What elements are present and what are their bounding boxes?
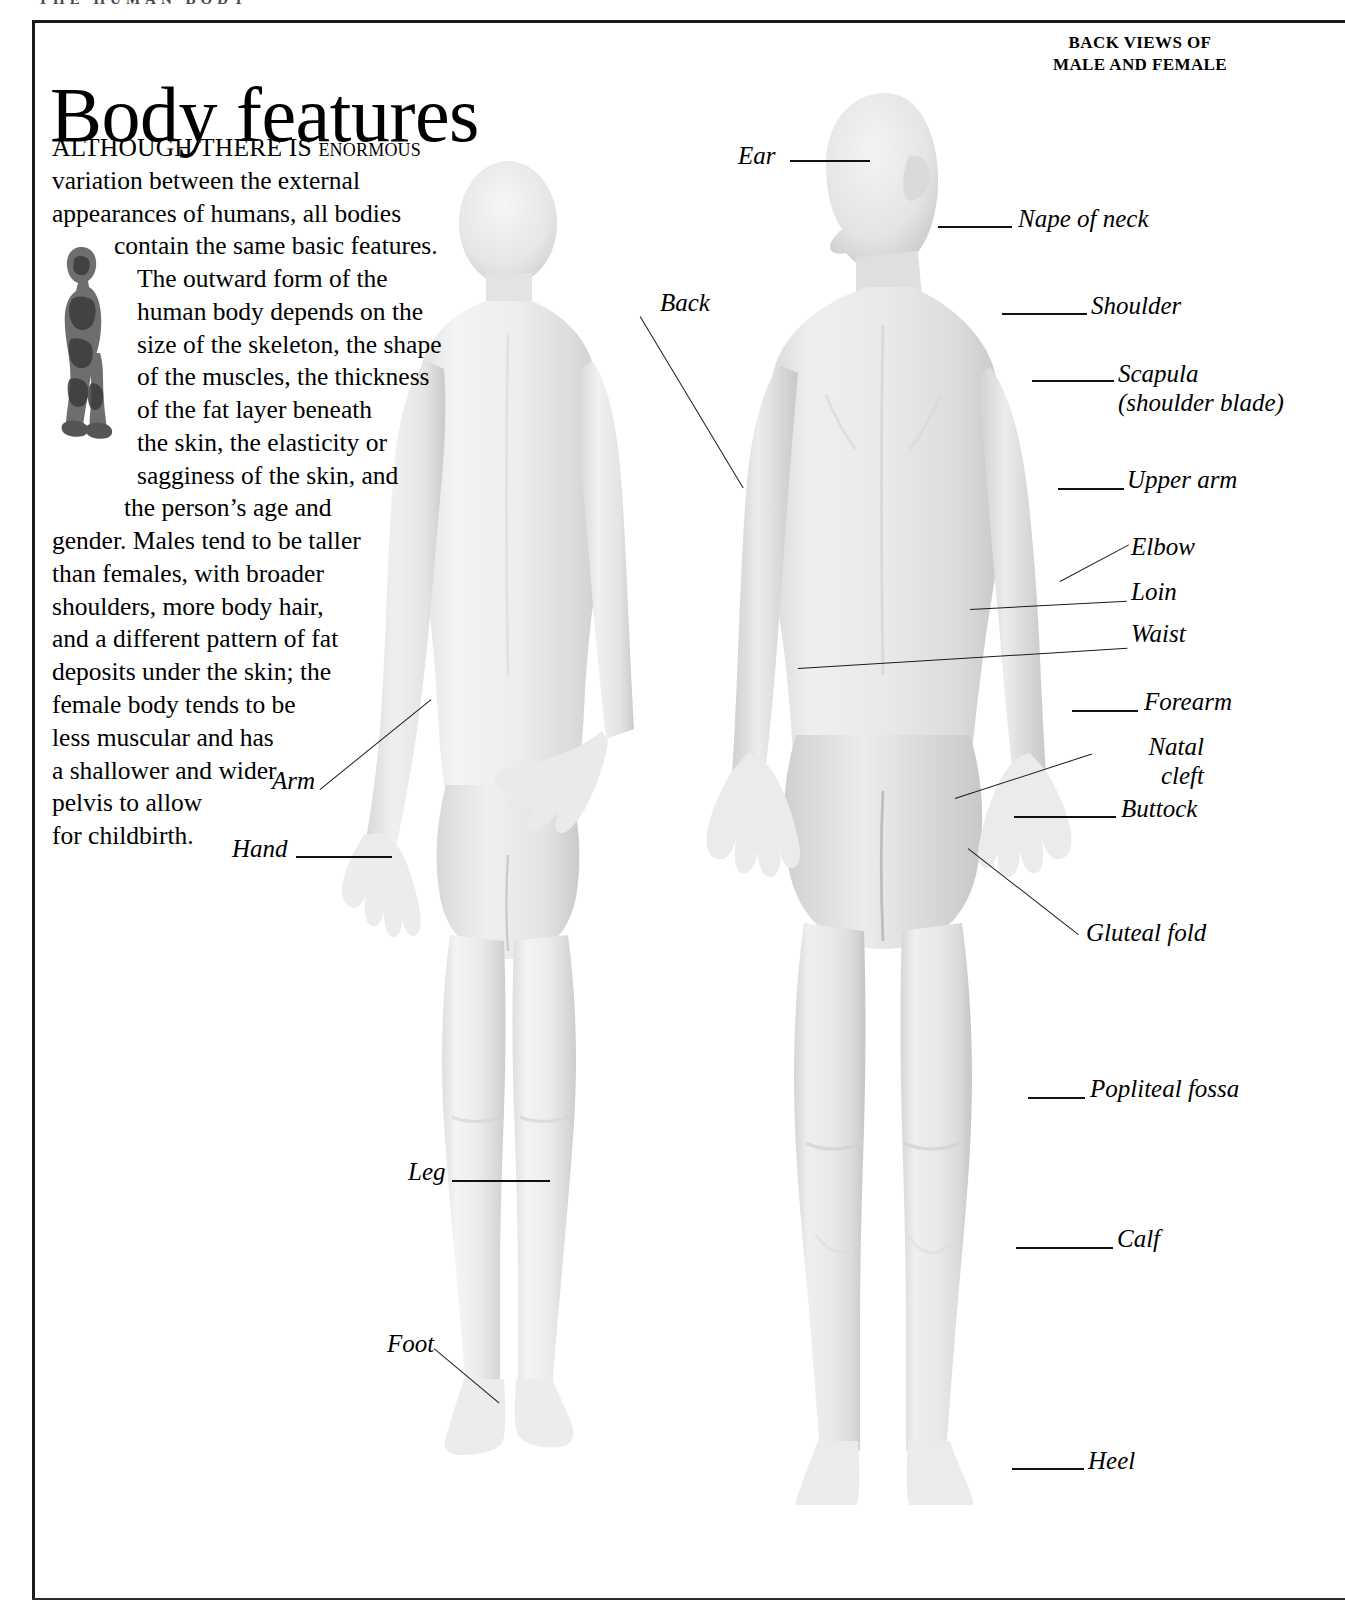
label-natal-cleft-line2: cleft bbox=[1161, 762, 1204, 789]
label-buttock: Buttock bbox=[1121, 795, 1197, 824]
intro-line-13: gender. Males tend to be taller bbox=[52, 525, 472, 558]
section-heading-line2: MALE AND FEMALE bbox=[1020, 54, 1260, 76]
label-scapula: Scapula (shoulder blade) bbox=[1118, 360, 1298, 417]
page-border-bottom bbox=[32, 1598, 1345, 1600]
intro-line-1: ALTHOUGH THERE IS enormous bbox=[52, 132, 472, 165]
label-popliteal-fossa: Popliteal fossa bbox=[1090, 1075, 1239, 1104]
figure-male-back-view bbox=[640, 75, 1110, 1505]
intro-line-21: pelvis to allow bbox=[52, 787, 472, 820]
section-heading: BACK VIEWS OF MALE AND FEMALE bbox=[1020, 32, 1260, 76]
intro-line-19: less muscular and has bbox=[52, 722, 472, 755]
label-foot: Foot bbox=[387, 1330, 434, 1359]
leader-ear bbox=[790, 160, 870, 162]
label-elbow: Elbow bbox=[1131, 533, 1195, 562]
intro-line-15: shoulders, more body hair, bbox=[52, 591, 472, 624]
label-scapula-line1: Scapula bbox=[1118, 360, 1199, 387]
intro-line-12: the person’s age and bbox=[52, 492, 472, 525]
leader-hand bbox=[296, 856, 392, 858]
intro-line-4: contain the same basic features. bbox=[52, 230, 472, 263]
label-forearm: Forearm bbox=[1144, 688, 1232, 717]
intro-line-7: size of the skeleton, the shape bbox=[52, 329, 472, 362]
label-calf: Calf bbox=[1117, 1225, 1160, 1254]
label-loin: Loin bbox=[1131, 578, 1177, 607]
page-border-left bbox=[32, 20, 35, 1600]
intro-line-14: than females, with broader bbox=[52, 558, 472, 591]
label-natal-cleft-line1: Natal bbox=[1148, 733, 1204, 760]
intro-paragraph: ALTHOUGH THERE IS enormous variation bet… bbox=[52, 132, 472, 853]
intro-line-20: a shallower and wider bbox=[52, 755, 472, 788]
label-gluteal-fold: Gluteal fold bbox=[1086, 919, 1206, 948]
intro-line-6: human body depends on the bbox=[52, 296, 472, 329]
leader-popliteal-fossa bbox=[1028, 1097, 1085, 1099]
label-leg: Leg bbox=[408, 1158, 446, 1187]
label-scapula-line2: (shoulder blade) bbox=[1118, 389, 1284, 416]
leader-nape-of-neck bbox=[938, 226, 1012, 228]
intro-line-2: variation between the external bbox=[52, 165, 472, 198]
leader-calf bbox=[1016, 1247, 1113, 1249]
intro-line-16: and a different pattern of fat bbox=[52, 623, 472, 656]
intro-line-9: of the fat layer beneath bbox=[52, 394, 472, 427]
leader-leg bbox=[452, 1180, 550, 1182]
intro-line-8: of the muscles, the thickness bbox=[52, 361, 472, 394]
label-hand: Hand bbox=[232, 835, 288, 864]
label-ear: Ear bbox=[738, 142, 776, 171]
label-upper-arm: Upper arm bbox=[1127, 466, 1237, 495]
intro-line-11: sagginess of the skin, and bbox=[52, 460, 472, 493]
intro-line-3: appearances of humans, all bodies bbox=[52, 198, 472, 231]
intro-line-5: The outward form of the bbox=[52, 263, 472, 296]
intro-line-17: deposits under the skin; the bbox=[52, 656, 472, 689]
label-shoulder: Shoulder bbox=[1091, 292, 1181, 321]
section-heading-line1: BACK VIEWS OF bbox=[1020, 32, 1260, 54]
intro-line-10: the skin, the elasticity or bbox=[52, 427, 472, 460]
label-nape-of-neck: Nape of neck bbox=[1018, 205, 1149, 234]
label-arm: Arm bbox=[272, 767, 315, 796]
page-border-top bbox=[32, 20, 1345, 23]
running-head: THE HUMAN BODY bbox=[38, 0, 249, 8]
leader-forearm bbox=[1072, 710, 1138, 712]
leader-upper-arm bbox=[1058, 488, 1124, 490]
label-waist: Waist bbox=[1131, 620, 1186, 649]
leader-shoulder bbox=[1002, 313, 1087, 315]
label-heel: Heel bbox=[1088, 1447, 1135, 1476]
leader-buttock bbox=[1014, 816, 1116, 818]
label-back: Back bbox=[660, 289, 710, 318]
label-natal-cleft: Natal cleft bbox=[1100, 733, 1204, 790]
leader-scapula bbox=[1032, 380, 1114, 382]
leader-heel bbox=[1012, 1468, 1084, 1470]
